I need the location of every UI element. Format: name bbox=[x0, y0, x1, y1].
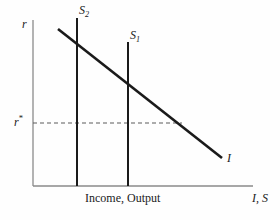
y-axis-title: r bbox=[22, 18, 27, 30]
equilibrium-rate-label: r* bbox=[14, 114, 23, 128]
x-axis-symbol-saving: S bbox=[262, 191, 268, 205]
saving-curve-s2-subscript: 2 bbox=[85, 10, 89, 19]
x-axis-caption: Income, Output bbox=[85, 192, 160, 204]
equilibrium-rate-asterisk: * bbox=[19, 113, 23, 123]
economics-figure: r r* Income, Output I, S S2 S1 I bbox=[0, 0, 280, 220]
saving-curve-s1-label: S1 bbox=[130, 29, 140, 45]
investment-curve-line bbox=[58, 29, 222, 158]
investment-curve-label: I bbox=[227, 152, 231, 164]
saving-curve-s2-label: S2 bbox=[79, 4, 89, 20]
saving-curve-s1-subscript: 1 bbox=[136, 35, 140, 44]
x-axis-symbols: I, S bbox=[252, 192, 268, 204]
